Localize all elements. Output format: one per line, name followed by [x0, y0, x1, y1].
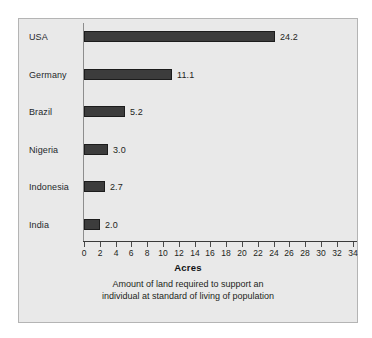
x-tick	[258, 242, 259, 247]
caption-line-1: Amount of land required to support an	[19, 278, 357, 290]
x-tick-label: 34	[348, 248, 357, 258]
bar-usa	[84, 31, 275, 42]
x-tick-label: 2	[98, 248, 103, 258]
bar-value-nigeria: 3.0	[113, 145, 126, 155]
plot-area: USA Germany Brazil Nigeria Indonesia Ind…	[19, 19, 357, 241]
x-tick-label: 10	[158, 248, 167, 258]
bar-germany	[84, 69, 172, 80]
bar-value-germany: 11.1	[177, 70, 194, 80]
x-tick-label: 0	[82, 248, 87, 258]
x-tick	[84, 242, 85, 247]
x-tick	[353, 242, 354, 247]
category-label-india: India	[29, 220, 49, 230]
x-tick	[210, 242, 211, 247]
x-axis-line	[83, 241, 357, 242]
x-tick	[242, 242, 243, 247]
x-tick-label: 16	[205, 248, 214, 258]
x-tick	[195, 242, 196, 247]
x-tick-label: 26	[284, 248, 293, 258]
bar-india	[84, 219, 100, 230]
category-label-brazil: Brazil	[29, 107, 52, 117]
x-tick-label: 30	[316, 248, 325, 258]
bar-value-brazil: 5.2	[130, 107, 143, 117]
caption-line-2: individual at standard of living of popu…	[19, 290, 357, 302]
category-label-indonesia: Indonesia	[29, 182, 69, 192]
category-label-nigeria: Nigeria	[29, 145, 58, 155]
bar-value-usa: 24.2	[280, 32, 298, 42]
bar-brazil	[84, 106, 125, 117]
x-tick	[305, 242, 306, 247]
x-tick	[337, 242, 338, 247]
x-tick	[116, 242, 117, 247]
x-tick-label: 22	[253, 248, 262, 258]
x-tick	[179, 242, 180, 247]
x-tick-label: 32	[332, 248, 341, 258]
x-tick	[163, 242, 164, 247]
x-tick-label: 14	[190, 248, 199, 258]
x-tick	[100, 242, 101, 247]
x-tick-label: 28	[300, 248, 309, 258]
category-label-germany: Germany	[29, 70, 67, 80]
x-tick-label: 18	[221, 248, 230, 258]
bar-value-india: 2.0	[105, 220, 118, 230]
x-tick-label: 20	[237, 248, 246, 258]
x-tick	[131, 242, 132, 247]
x-tick-label: 24	[269, 248, 278, 258]
x-tick-label: 6	[129, 248, 134, 258]
x-tick-label: 12	[174, 248, 183, 258]
bar-indonesia	[84, 181, 105, 192]
x-axis-title: Acres	[19, 262, 357, 273]
x-tick-label: 4	[114, 248, 119, 258]
x-tick	[274, 242, 275, 247]
chart-figure: USA Germany Brazil Nigeria Indonesia Ind…	[18, 18, 358, 323]
x-tick	[226, 242, 227, 247]
x-tick	[147, 242, 148, 247]
x-tick	[321, 242, 322, 247]
chart-caption: Amount of land required to support an in…	[19, 278, 357, 302]
bar-nigeria	[84, 144, 108, 155]
category-label-usa: USA	[29, 32, 48, 42]
bar-value-indonesia: 2.7	[110, 182, 123, 192]
x-tick-label: 8	[145, 248, 150, 258]
x-tick	[289, 242, 290, 247]
y-axis-line	[83, 23, 84, 241]
